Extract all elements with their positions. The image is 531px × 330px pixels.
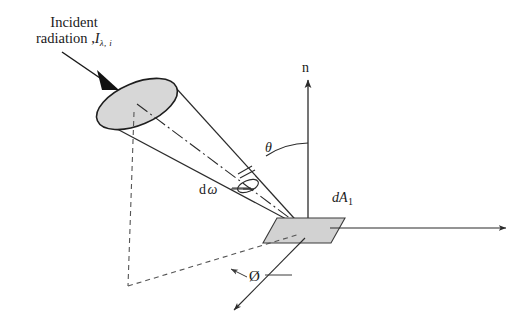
solid-angle-label: dω [199,182,217,198]
polar-angle-label: θ [265,140,272,156]
cone-center-axis [137,104,303,228]
phi-leader-lines [231,269,292,277]
solid-angle-cross-section [236,177,261,196]
azimuthal-angle-label: Ø [249,268,260,285]
figure-canvas [0,0,531,330]
incident-label-line1: Incident [36,14,112,30]
solid-angle-d: d [199,182,206,197]
theta-arc [238,143,308,178]
azimuth-axis [234,238,305,310]
incident-radiation-label: Incident radiation ,Iλ, i [36,14,112,48]
solid-angle-omega: ω [206,182,217,197]
incident-intensity-subscript: λ, i [100,38,113,48]
radiation-solid-angle-figure: Incident radiation ,Iλ, i n θ dω dA1 Ø [0,0,531,330]
domega-leader-line [231,188,254,189]
area-element-symbol: dA [332,190,348,205]
area-element-label: dA1 [332,190,353,207]
incident-label-text: radiation , [36,30,95,46]
area-element-subscript: 1 [348,196,354,207]
projection-dashed-lines [128,112,300,286]
incident-label-line2: radiation ,Iλ, i [36,30,112,48]
normal-axis-label: n [302,60,309,76]
incident-arrow-icon [62,52,119,90]
